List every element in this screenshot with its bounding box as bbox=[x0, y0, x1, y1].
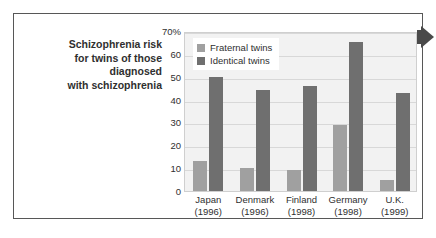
legend-label-identical: Identical twins bbox=[210, 54, 270, 67]
y-tick-label: 10 bbox=[170, 164, 181, 174]
x-tick-country: Japan bbox=[195, 194, 221, 205]
y-tick-label: 70% bbox=[162, 27, 181, 37]
bar-finland-fraternal bbox=[287, 170, 301, 191]
figure-panel: Schizophrenia risk for twins of those di… bbox=[13, 13, 423, 219]
y-tick-label: 0 bbox=[176, 187, 181, 197]
bar-germany-identical bbox=[349, 42, 363, 191]
caption-line-3: diagnosed bbox=[22, 65, 162, 79]
bar-japan-fraternal bbox=[193, 161, 207, 191]
bar-denmark-identical bbox=[256, 90, 270, 191]
y-tick-label: 50 bbox=[170, 73, 181, 83]
x-tick-label: Japan(1996) bbox=[185, 194, 232, 217]
legend-swatch-icon-identical bbox=[197, 57, 205, 65]
x-tick-country: Germany bbox=[329, 194, 368, 205]
x-tick-country: Denmark bbox=[236, 194, 275, 205]
y-axis: 010203040506070% bbox=[155, 20, 181, 192]
y-tick-label: 40 bbox=[170, 96, 181, 106]
bar-denmark-fraternal bbox=[240, 168, 254, 191]
x-tick-label: Finland(1998) bbox=[278, 194, 325, 217]
edge-arrow-icon bbox=[421, 26, 434, 48]
x-tick-year: (1998) bbox=[278, 206, 325, 218]
bar-uk-fraternal bbox=[380, 180, 394, 191]
x-tick-country: Finland bbox=[286, 194, 317, 205]
bar-uk-identical bbox=[396, 93, 410, 191]
y-tick-label: 20 bbox=[170, 141, 181, 151]
legend-item-identical: Identical twins bbox=[197, 54, 272, 67]
legend-label-fraternal: Fraternal twins bbox=[210, 41, 272, 54]
bar-germany-fraternal bbox=[333, 125, 347, 191]
caption-line-1: Schizophrenia risk bbox=[22, 38, 162, 52]
bar-chart: 010203040506070% Fraternal twins Identic… bbox=[155, 20, 417, 215]
x-tick-year: (1999) bbox=[371, 206, 418, 218]
bar-finland-identical bbox=[303, 86, 317, 191]
chart-legend: Fraternal twins Identical twins bbox=[193, 38, 279, 70]
x-axis: Japan(1996)Denmark(1996)Finland(1998)Ger… bbox=[185, 194, 416, 222]
legend-item-fraternal: Fraternal twins bbox=[197, 41, 272, 54]
x-tick-country: U.K. bbox=[385, 194, 403, 205]
x-tick-year: (1996) bbox=[232, 206, 279, 218]
bar-japan-identical bbox=[209, 77, 223, 191]
x-tick-label: Denmark(1996) bbox=[232, 194, 279, 217]
x-tick-year: (1996) bbox=[185, 206, 232, 218]
caption-line-2: for twins of those bbox=[22, 52, 162, 66]
x-tick-year: (1998) bbox=[325, 206, 372, 218]
plot-area: Fraternal twins Identical twins bbox=[184, 32, 417, 192]
x-tick-label: Germany(1998) bbox=[325, 194, 372, 217]
legend-swatch-icon-fraternal bbox=[197, 44, 205, 52]
caption-line-4: with schizophrenia bbox=[22, 79, 162, 93]
y-tick-label: 30 bbox=[170, 118, 181, 128]
chart-caption: Schizophrenia risk for twins of those di… bbox=[22, 38, 162, 92]
x-tick-label: U.K.(1999) bbox=[371, 194, 418, 217]
y-tick-label: 60 bbox=[170, 50, 181, 60]
